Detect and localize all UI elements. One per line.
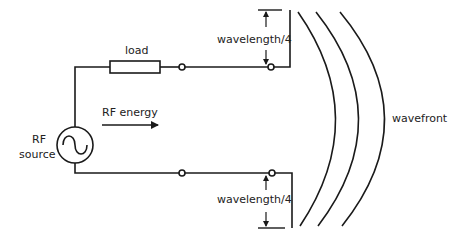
wavefront-label: wavefront — [392, 112, 448, 125]
wavefront-arc-2 — [316, 12, 359, 226]
bottom-terminal-2 — [269, 170, 275, 176]
wavelength-top-label: wavelength/4 — [217, 33, 292, 46]
bottom-feed-wire-left — [75, 163, 179, 173]
wavefront-arc-1 — [298, 12, 336, 226]
antenna-diagram: load RF source RF energy wavelength/4 wa… — [0, 0, 460, 240]
rf-energy-label: RF energy — [102, 106, 158, 119]
load-resistor — [110, 61, 160, 73]
load-label: load — [125, 44, 149, 57]
rf-source-label-line2: source — [19, 148, 56, 161]
wavefront-arc-3 — [340, 12, 385, 226]
wavelength-bottom-label: wavelength/4 — [217, 193, 292, 206]
bottom-terminal-1 — [179, 170, 185, 176]
top-terminal-2 — [268, 64, 274, 70]
rf-source-label-line1: RF — [32, 133, 46, 146]
top-terminal-1 — [179, 64, 185, 70]
